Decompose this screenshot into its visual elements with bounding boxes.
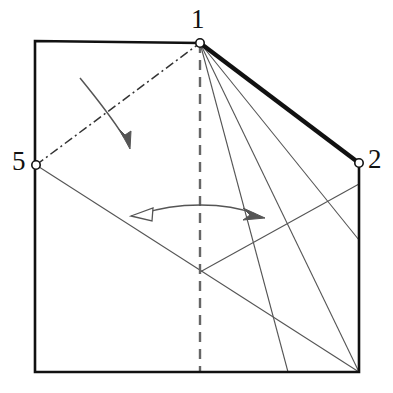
vertex-label-5: 5 bbox=[12, 148, 26, 175]
vertex-label-1: 1 bbox=[191, 6, 205, 33]
canvas-background bbox=[0, 0, 393, 393]
diagram-canvas: 1 5 2 bbox=[0, 0, 393, 393]
fold-diagram-svg bbox=[0, 0, 393, 393]
vertex-marker-5[interactable] bbox=[32, 161, 40, 169]
vertex-label-2: 2 bbox=[368, 146, 382, 173]
vertex-marker-1[interactable] bbox=[196, 39, 204, 47]
vertex-marker-2[interactable] bbox=[355, 159, 363, 167]
